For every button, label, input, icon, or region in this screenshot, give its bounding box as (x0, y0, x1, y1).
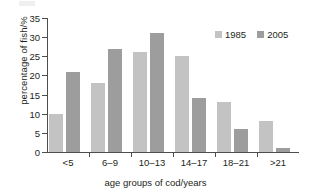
legend-swatch-1985 (215, 31, 222, 38)
x-tick-label: >21 (248, 157, 308, 168)
bar-2005-18–21 (234, 129, 248, 152)
bar-1985->21 (259, 121, 273, 152)
legend-label: 1985 (225, 29, 246, 40)
bar-2005->21 (276, 148, 290, 152)
bar-chart: percentage of fish/% 05101520253035 <56–… (0, 0, 311, 196)
legend: 19852005 (215, 29, 288, 40)
legend-item-1985[interactable]: 1985 (215, 29, 246, 40)
y-tick-label: 0 (2, 148, 40, 158)
y-tick-label: 30 (2, 33, 40, 43)
bar-1985-10–13 (133, 52, 147, 152)
legend-item-2005[interactable]: 2005 (257, 29, 288, 40)
y-tick-label: 25 (2, 52, 40, 62)
bar-group (47, 18, 89, 152)
bar-2005-14–17 (192, 98, 206, 152)
bar-1985-18–21 (217, 102, 231, 152)
legend-label: 2005 (267, 29, 288, 40)
y-tick-label: 5 (2, 129, 40, 139)
bar-2005-6–9 (108, 49, 122, 152)
y-tick-label: 10 (2, 110, 40, 120)
y-tick-label: 35 (2, 14, 40, 24)
y-tick-label: 20 (2, 71, 40, 81)
bar-group (131, 18, 173, 152)
bar-1985-<5 (49, 114, 63, 152)
bar-2005-10–13 (150, 33, 164, 152)
bar-1985-6–9 (91, 83, 105, 152)
x-axis-title: age groups of cod/years (0, 177, 311, 188)
bar-2005-<5 (66, 72, 80, 152)
y-tick-label: 15 (2, 91, 40, 101)
bar-1985-14–17 (175, 56, 189, 152)
bar-group (173, 18, 215, 152)
legend-swatch-2005 (257, 31, 264, 38)
bar-group (89, 18, 131, 152)
y-tick (42, 152, 47, 153)
